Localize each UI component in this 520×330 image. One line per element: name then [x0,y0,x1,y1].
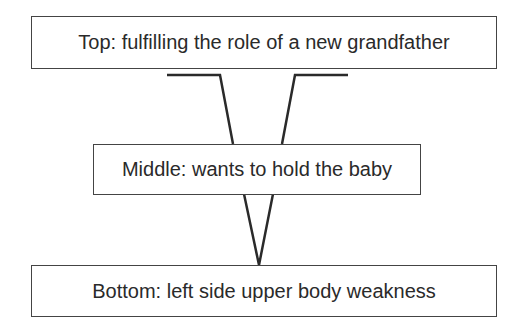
middle-box: Middle: wants to hold the baby [93,144,421,195]
bottom-label: Bottom: left side upper body weakness [92,280,436,303]
bottom-box: Bottom: left side upper body weakness [31,265,497,317]
upper-funnel-left-line [167,75,233,144]
top-label: Top: fulfilling the role of a new grandf… [78,31,449,54]
middle-label: Middle: wants to hold the baby [122,158,392,181]
top-box: Top: fulfilling the role of a new grandf… [31,16,497,69]
lower-v-line [244,194,273,265]
upper-funnel-right-line [282,75,348,144]
